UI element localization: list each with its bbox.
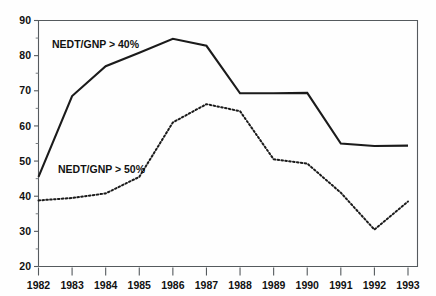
plot-frame (39, 21, 418, 267)
y-tick-label: 90 (19, 14, 31, 26)
clipped-title-sliver (14, 0, 344, 3)
x-tick-label: 1989 (262, 279, 286, 291)
x-axis-ticks (39, 268, 409, 276)
x-tick-label: 1993 (396, 279, 420, 291)
x-tick-label: 1984 (94, 279, 118, 291)
series-annotations: NEDT/GNP > 40%NEDT/GNP > 50% (52, 38, 146, 175)
y-tick-label: 20 (19, 260, 31, 272)
x-axis-tick-labels: 1982198319841985198619871988198919901991… (27, 279, 420, 291)
line-chart: 2030405060708090 19821983198419851986198… (0, 0, 436, 296)
y-tick-label: 50 (19, 155, 31, 167)
y-tick-label: 40 (19, 190, 31, 202)
x-tick-label: 1986 (161, 279, 185, 291)
x-tick-label: 1991 (329, 279, 353, 291)
x-tick-label: 1988 (228, 279, 252, 291)
x-tick-label: 1992 (363, 279, 387, 291)
x-tick-label: 1987 (195, 279, 219, 291)
y-axis-tick-labels: 2030405060708090 (19, 14, 31, 272)
series-annotation-label: NEDT/GNP > 50% (58, 163, 146, 175)
y-tick-label: 60 (19, 120, 31, 132)
series-annotation-label: NEDT/GNP > 40% (52, 38, 140, 50)
x-tick-label: 1990 (296, 279, 320, 291)
x-tick-label: 1983 (60, 279, 84, 291)
plot-border (39, 21, 418, 267)
series-layer (39, 39, 409, 230)
y-tick-label: 80 (19, 49, 31, 61)
x-tick-label: 1982 (27, 279, 51, 291)
y-tick-label: 70 (19, 84, 31, 96)
x-tick-label: 1985 (128, 279, 152, 291)
chart-figure: 2030405060708090 19821983198419851986198… (0, 0, 436, 296)
y-axis-ticks (34, 21, 39, 267)
y-tick-label: 30 (19, 225, 31, 237)
